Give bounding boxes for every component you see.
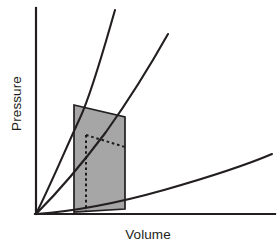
shallow-isotherm-curve xyxy=(36,154,272,214)
x-axis-label: Volume xyxy=(0,227,280,242)
y-axis-label: Pressure xyxy=(9,58,24,150)
pressure-volume-figure: Pressure Volume xyxy=(0,0,280,251)
work-region-polygon xyxy=(74,105,125,212)
pv-diagram-canvas xyxy=(0,0,280,251)
